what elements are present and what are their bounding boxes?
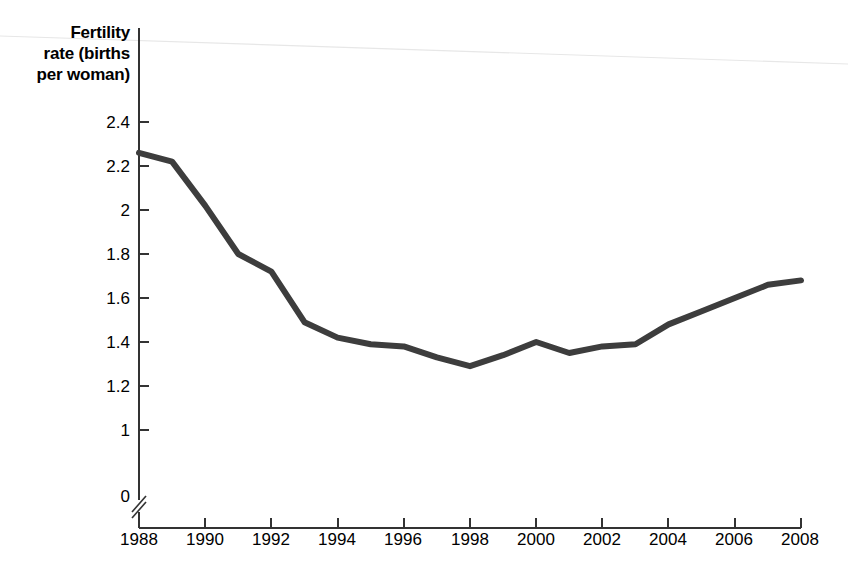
fertility-rate-chart-figure: Fertility rate (births per woman) 2.4 2.… [0, 0, 848, 586]
y-axis-ticks [139, 122, 149, 430]
x-axis [139, 518, 801, 528]
x-axis-ticks [139, 518, 801, 528]
fertility-rate-line [139, 153, 801, 366]
y-axis [132, 28, 149, 528]
plot-area [0, 0, 848, 586]
